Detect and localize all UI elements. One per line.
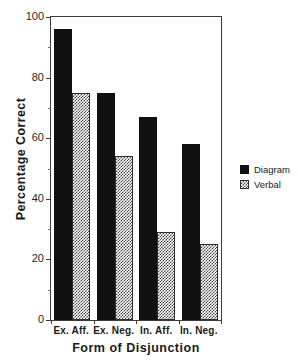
bar-diagram-inaff <box>139 117 157 320</box>
x-tick-label-exaff: Ex. Aff. <box>50 325 93 336</box>
legend-label-diagram: Diagram <box>254 165 290 175</box>
x-axis-title: Form of Disjunction <box>30 341 242 355</box>
y-tick-label-80: 80 <box>4 72 44 83</box>
bar-verbal-inaff <box>157 232 175 320</box>
x-tick-label-exneg: Ex. Neg. <box>93 325 136 336</box>
bar-chart-figure: Percentage Correct Ex. Aff.Ex. Neg.In. A… <box>0 0 298 362</box>
y-axis-major-tick <box>46 78 51 79</box>
x-tick-label-inneg: In. Neg. <box>178 325 221 336</box>
bars-layer <box>51 17 221 320</box>
bar-verbal-inneg <box>200 244 218 320</box>
y-axis-minor-tick <box>48 169 51 170</box>
y-axis-major-tick <box>46 17 51 18</box>
legend-item-diagram: Diagram <box>240 163 290 176</box>
y-tick-label-100: 100 <box>4 11 44 22</box>
chart-legend: DiagramVerbal <box>240 163 290 193</box>
legend-label-verbal: Verbal <box>254 180 281 190</box>
bar-verbal-exneg <box>115 156 133 320</box>
bar-diagram-exneg <box>97 93 115 320</box>
y-axis-minor-tick <box>48 290 51 291</box>
y-tick-label-60: 60 <box>4 132 44 143</box>
x-axis-tick <box>179 320 180 324</box>
y-tick-label-40: 40 <box>4 193 44 204</box>
y-axis-minor-tick <box>48 108 51 109</box>
bar-verbal-exaff <box>72 93 90 320</box>
checkerboard-gray-swatch-icon <box>240 180 249 189</box>
y-axis-major-tick <box>46 320 51 321</box>
x-axis-tick <box>221 320 222 324</box>
x-tick-label-inaff: In. Aff. <box>135 325 178 336</box>
y-axis-minor-tick <box>48 47 51 48</box>
y-tick-label-0: 0 <box>4 314 44 325</box>
x-axis-tick <box>94 320 95 324</box>
bar-diagram-inneg <box>182 144 200 320</box>
x-axis-tick <box>51 320 52 324</box>
bar-diagram-exaff <box>54 29 72 320</box>
solid-black-swatch-icon <box>240 165 249 174</box>
plot-area <box>50 16 222 321</box>
y-tick-label-20: 20 <box>4 253 44 264</box>
x-axis-tick <box>136 320 137 324</box>
y-axis-major-tick <box>46 259 51 260</box>
y-axis-minor-tick <box>48 229 51 230</box>
legend-item-verbal: Verbal <box>240 178 290 191</box>
y-axis-major-tick <box>46 138 51 139</box>
y-axis-title: Percentage Correct <box>14 69 28 249</box>
y-axis-major-tick <box>46 199 51 200</box>
